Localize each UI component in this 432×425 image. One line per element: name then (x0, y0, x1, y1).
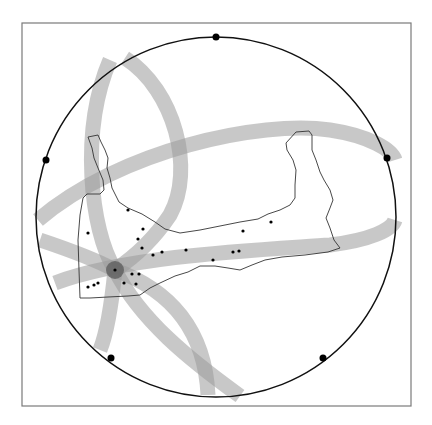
station-marker (320, 355, 327, 362)
event-point (184, 248, 187, 251)
event-point (136, 237, 139, 240)
station-marker (43, 157, 50, 164)
event-point (241, 229, 244, 232)
event-point (160, 250, 163, 253)
localization-figure (0, 0, 432, 425)
event-point (269, 220, 272, 223)
event-point (92, 283, 95, 286)
station-marker (108, 355, 115, 362)
event-point (211, 258, 214, 261)
event-point (231, 250, 234, 253)
station-marker (384, 155, 391, 162)
event-point (86, 231, 89, 234)
event-point (122, 281, 125, 284)
event-point (140, 246, 143, 249)
event-point (137, 272, 140, 275)
event-point (141, 227, 144, 230)
event-point (237, 249, 240, 252)
event-point (86, 285, 89, 288)
event-point (151, 253, 154, 256)
event-point (113, 268, 116, 271)
event-point (134, 282, 137, 285)
event-point (126, 208, 129, 211)
station-marker (213, 34, 220, 41)
event-point (130, 272, 133, 275)
event-point (96, 281, 99, 284)
band-3 (91, 60, 115, 350)
